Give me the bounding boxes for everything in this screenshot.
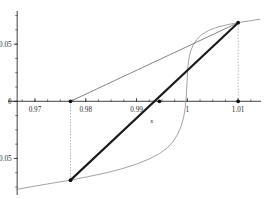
x-axis-label: x	[149, 117, 153, 124]
x-tick-label-0: 0.97	[29, 106, 42, 114]
y-tick-label-2: -0.05	[0, 155, 12, 163]
marker-root-bracket-right-on-axis	[236, 99, 240, 103]
y-tick-label-0: 0.05	[0, 41, 12, 49]
chart-canvas: 0.970.980.9911.01 0.050-0.05 x	[0, 0, 264, 199]
x-tick-label-4: 1.01	[232, 106, 245, 114]
marker-chord-axis-crossing	[158, 99, 162, 103]
x-tick-label-3: 1	[186, 106, 190, 114]
x-tick-label-1: 0.98	[79, 106, 92, 114]
marker-convergence-point	[236, 21, 240, 25]
marker-curve-point-lower-left	[69, 178, 73, 182]
y-tick-label-1: 0	[8, 98, 12, 106]
secant-method-plot: 0.970.980.9911.01 0.050-0.05 x	[0, 0, 264, 199]
marker-root-bracket-left-on-axis	[69, 99, 73, 103]
plot-background	[0, 0, 264, 199]
x-tick-label-2: 0.99	[130, 106, 143, 114]
